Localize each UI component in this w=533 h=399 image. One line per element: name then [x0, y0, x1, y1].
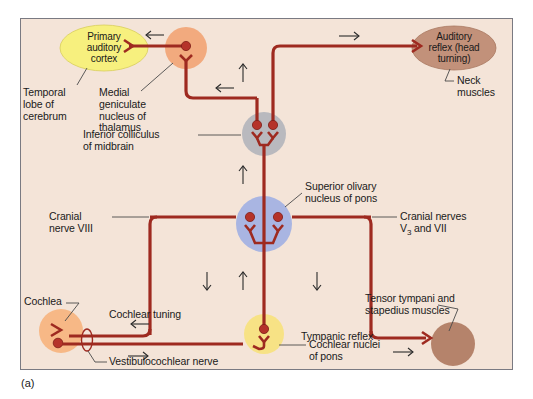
arrow-ic-ascending-upper	[239, 64, 247, 82]
leader-neck-muscles	[445, 69, 454, 81]
soma-ic-left	[252, 120, 261, 129]
label-cochlea: Cochlea	[24, 296, 62, 308]
figure-root: .pw { fill: none; stroke: #9e2a20; strok…	[0, 0, 533, 399]
soma-cochlear-nuclei	[259, 324, 268, 333]
soma-cochlea-afferent	[53, 338, 63, 348]
cranial-nerves-line2-pre: V	[400, 222, 407, 234]
arrow-mid-ascending	[239, 272, 247, 290]
arrow-son-to-ic-ascending	[239, 166, 247, 184]
label-inferior-colliculus: Inferior colliculus of midbrain	[83, 129, 159, 153]
cranial-nerves-line2-post: and VII	[411, 222, 446, 234]
diagram-frame: .pw { fill: none; stroke: #9e2a20; strok…	[20, 18, 513, 370]
pathway-ic-to-auditory-reflex	[273, 46, 417, 123]
label-tensor-tympani: Tensor tympani and stapedius muscles	[365, 293, 455, 317]
label-cranial-nerves-v3-vii: Cranial nervesV3 and VII	[400, 211, 466, 239]
cranial-nerves-line1: Cranial nerves	[400, 210, 466, 222]
label-neck-muscles: Neck muscles	[457, 75, 495, 99]
node-tensor-tympani-muscle	[431, 322, 475, 366]
arrow-left-descending	[203, 272, 211, 290]
leader-temporal-lobe	[77, 68, 87, 85]
leader-vestibulocochlear	[88, 351, 107, 362]
label-cochlear-tuning: Cochlear tuning	[109, 309, 181, 321]
arrow-ic-to-auditory-reflex	[339, 32, 359, 40]
label-tympanic-reflex: Tympanic reflex	[301, 331, 373, 343]
pathway-cn-v3-vii-corner	[364, 217, 371, 337]
diagram-svg: .pw { fill: none; stroke: #9e2a20; strok…	[21, 19, 513, 370]
panel-letter: (a)	[21, 377, 34, 389]
label-primary-auditory-cortex: Primary auditory cortex	[60, 31, 148, 64]
soma-son-left	[245, 212, 254, 221]
label-vestibulocochlear-nerve: Vestibulocochlear nerve	[109, 356, 218, 368]
arrow-right-descending	[313, 272, 321, 290]
label-cranial-nerve-viii: Cranial nerve VIII	[49, 211, 93, 235]
soma-ic-right	[268, 120, 277, 129]
arrow-mgn-from-ic	[216, 84, 234, 92]
soma-mgn	[181, 41, 190, 50]
arrow-cortex-from-mgn	[146, 31, 164, 39]
label-auditory-reflex: Auditory reflex (head turning)	[412, 31, 496, 64]
arrow-cochlear-tuning-left	[131, 320, 149, 328]
soma-son-right	[273, 212, 282, 221]
label-superior-olivary-nucleus: Superior olivary nucleus of pons	[305, 181, 377, 205]
pathway-mgn-to-ic	[186, 61, 257, 98]
arrow-tympanic-reflex-right	[393, 348, 413, 356]
label-temporal-lobe: Temporal lobe of cerebrum	[23, 87, 67, 122]
pathway-tympanic-reflex	[371, 331, 426, 338]
leader-superior-olivary	[285, 193, 302, 207]
nerve-sheath-oval	[82, 329, 93, 351]
